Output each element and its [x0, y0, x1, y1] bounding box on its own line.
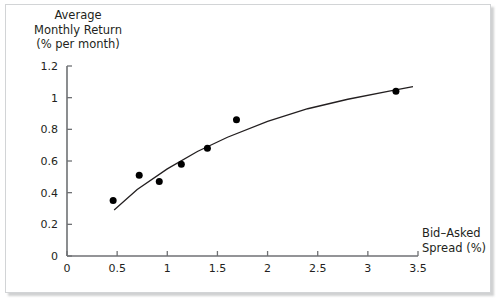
axis-ticks — [67, 66, 418, 256]
y-tick-label: 0.8 — [41, 123, 59, 136]
data-point — [392, 88, 399, 95]
fitted-curve-path — [114, 87, 413, 211]
x-tick-label: 3 — [364, 262, 371, 275]
x-tick-label: 2 — [264, 262, 271, 275]
data-point — [136, 172, 143, 179]
y-tick-label: 0.2 — [41, 218, 59, 231]
x-tick-label: 0.5 — [108, 262, 126, 275]
x-tick-label: 2.5 — [309, 262, 327, 275]
data-point — [204, 145, 211, 152]
y-tick-label: 1 — [51, 92, 58, 105]
data-point — [233, 116, 240, 123]
fitted-curve — [114, 87, 413, 211]
data-point — [178, 161, 185, 168]
axis-tick-labels: 00.511.522.533.500.20.40.60.811.2 — [41, 60, 427, 275]
y-tick-label: 0 — [51, 250, 58, 263]
data-point — [156, 178, 163, 185]
y-tick-label: 0.6 — [41, 155, 59, 168]
axes — [67, 66, 418, 256]
scatter-plot: 00.511.522.533.500.20.40.60.811.2 — [0, 0, 500, 304]
y-tick-label: 0.4 — [41, 187, 59, 200]
x-tick-label: 3.5 — [409, 262, 427, 275]
chart-figure: Average Monthly Return (% per month) Bid… — [0, 0, 500, 304]
y-tick-label: 1.2 — [41, 60, 59, 73]
data-points — [110, 88, 400, 204]
data-point — [110, 197, 117, 204]
x-tick-label: 1.5 — [209, 262, 227, 275]
x-tick-label: 0 — [64, 262, 71, 275]
x-tick-label: 1 — [164, 262, 171, 275]
